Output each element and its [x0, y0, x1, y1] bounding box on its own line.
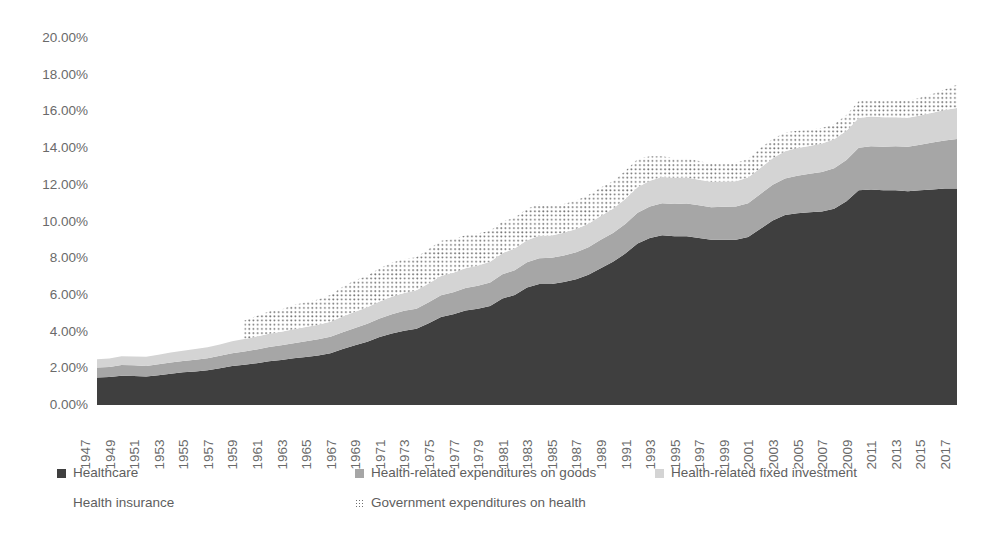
dark-square-swatch-icon: [57, 469, 66, 478]
y-axis-tick-label: 4.00%: [50, 325, 88, 339]
y-axis-tick-label: 16.00%: [42, 104, 88, 118]
y-axis-tick-label: 18.00%: [42, 68, 88, 82]
x-axis-tick-label: 2013: [889, 439, 903, 469]
legend-item-label: Health-related expenditures on goods: [371, 466, 596, 480]
x-axis-tick-label: 2017: [939, 439, 953, 469]
white-square-swatch-icon: [57, 499, 66, 508]
y-axis-tick-label: 20.00%: [42, 31, 88, 45]
y-axis-tick-label: 8.00%: [50, 251, 88, 265]
chart-legend: HealthcareHealth-related expenditures on…: [0, 466, 1001, 526]
x-axis-tick-label: 1993: [644, 439, 658, 469]
x-axis-tick-label: 1957: [201, 439, 215, 469]
x-axis-tick-label: 1961: [251, 439, 265, 469]
legend-item-label: Health insurance: [73, 496, 174, 510]
legend-item[interactable]: Government expenditures on health: [355, 496, 586, 510]
legend-item[interactable]: Health insurance: [57, 496, 174, 510]
x-axis-tick-label: 1991: [619, 439, 633, 469]
light-square-swatch-icon: [655, 469, 664, 478]
chart-container: 20.00%18.00%16.00%14.00%12.00%10.00%8.00…: [0, 0, 1001, 553]
x-axis-tick-label: 1959: [226, 439, 240, 469]
legend-item[interactable]: Health-related expenditures on goods: [355, 466, 596, 480]
y-axis-tick-label: 6.00%: [50, 288, 88, 302]
x-axis-tick-label: 1969: [349, 439, 363, 469]
y-axis-tick-label: 14.00%: [42, 141, 88, 155]
y-axis-tick-label: 10.00%: [42, 215, 88, 229]
legend-item[interactable]: Healthcare: [57, 466, 138, 480]
x-axis-tick-label: 1965: [300, 439, 314, 469]
legend-item[interactable]: Health-related fixed investment: [655, 466, 857, 480]
medium-square-swatch-icon: [355, 469, 364, 478]
x-axis-tick-label: 2015: [914, 439, 928, 469]
legend-item-label: Government expenditures on health: [371, 496, 586, 510]
dotted-square-swatch-icon: [355, 499, 364, 508]
x-axis-tick-label: 2011: [865, 440, 879, 469]
y-axis-tick-label: 0.00%: [50, 398, 88, 412]
x-axis-tick-label: 1955: [177, 439, 191, 469]
stacked-area-svg: [97, 38, 957, 405]
x-axis-tick-label: 1989: [595, 439, 609, 469]
legend-item-label: Health-related fixed investment: [671, 466, 857, 480]
x-axis: 1947194919511953195519571959196119631965…: [97, 407, 957, 469]
y-axis-tick-label: 2.00%: [50, 361, 88, 375]
x-axis-tick-label: 1953: [152, 439, 166, 469]
y-axis-tick-label: 12.00%: [42, 178, 88, 192]
plot-area: [97, 38, 957, 405]
legend-item-label: Healthcare: [73, 466, 138, 480]
x-axis-tick-label: 1967: [324, 439, 338, 469]
x-axis-tick-label: 1963: [275, 439, 289, 469]
